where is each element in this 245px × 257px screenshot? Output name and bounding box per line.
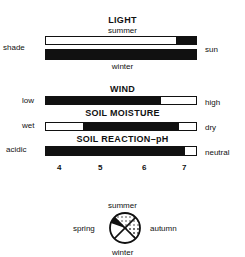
wind-low-label: low bbox=[22, 96, 34, 105]
light-winter-label: winter bbox=[0, 62, 245, 71]
soil-reaction-neutral-label: neutral bbox=[205, 148, 229, 157]
wind-fill bbox=[46, 97, 161, 104]
soil-reaction-acidic-label: acidic bbox=[6, 145, 26, 154]
light-winter-bar bbox=[45, 49, 197, 60]
soil-moisture-title: SOIL MOISTURE bbox=[0, 108, 245, 118]
season-wheel-icon bbox=[105, 208, 145, 248]
light-summer-fill bbox=[176, 37, 197, 44]
wind-bar bbox=[45, 96, 197, 105]
light-title: LIGHT bbox=[0, 15, 245, 25]
ph-tick-4: 4 bbox=[57, 163, 61, 172]
season-spring-label: spring bbox=[73, 224, 95, 233]
soil-reaction-fill bbox=[46, 147, 185, 155]
light-summer-bar bbox=[45, 36, 197, 45]
wind-title: WIND bbox=[0, 84, 245, 94]
soil-moisture-wet-label: wet bbox=[22, 121, 34, 130]
soil-moisture-fill bbox=[83, 123, 179, 130]
soil-reaction-bar bbox=[45, 146, 197, 156]
soil-moisture-dry-label: dry bbox=[205, 123, 216, 132]
ph-tick-7: 7 bbox=[182, 163, 186, 172]
ph-tick-5: 5 bbox=[98, 163, 102, 172]
season-autumn-label: autumn bbox=[150, 224, 177, 233]
light-shade-label: shade bbox=[3, 43, 25, 52]
soil-reaction-title: SOIL REACTION–pH bbox=[0, 134, 245, 144]
light-sun-label: sun bbox=[205, 45, 218, 54]
season-winter-label: winter bbox=[112, 248, 133, 257]
light-summer-label: summer bbox=[0, 26, 245, 35]
soil-moisture-bar bbox=[45, 122, 197, 131]
wind-high-label: high bbox=[205, 98, 220, 107]
ph-tick-6: 6 bbox=[142, 163, 146, 172]
